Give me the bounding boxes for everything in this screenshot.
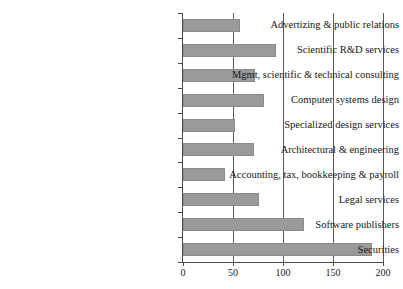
category-label: Securities xyxy=(225,244,403,256)
y-tick-7 xyxy=(178,187,182,188)
bar-chart: 050100150200 Advertizing & public relati… xyxy=(0,0,403,289)
bar xyxy=(183,168,225,181)
category-label: Advertizing & public relations xyxy=(225,19,403,31)
y-tick-3 xyxy=(178,88,182,89)
x-tick-label-0: 0 xyxy=(163,267,203,279)
y-tick-0 xyxy=(178,13,182,14)
y-tick-1 xyxy=(178,38,182,39)
category-label: Mgmt, scientific & technical consulting xyxy=(225,69,403,81)
y-tick-6 xyxy=(178,162,182,163)
x-tick-100 xyxy=(283,262,284,266)
y-tick-5 xyxy=(178,138,182,139)
category-label: Computer systems design xyxy=(225,94,403,106)
category-label: Architectural & engineering xyxy=(225,144,403,156)
y-tick-10 xyxy=(178,262,182,263)
x-tick-200 xyxy=(383,262,384,266)
x-tick-label-150: 150 xyxy=(313,267,353,279)
category-label: Legal services xyxy=(225,194,403,206)
category-label: Software publishers xyxy=(225,219,403,231)
y-tick-4 xyxy=(178,113,182,114)
y-tick-9 xyxy=(178,237,182,238)
category-label: Accounting, tax, bookkeeping & payroll xyxy=(225,169,403,181)
x-tick-150 xyxy=(333,262,334,266)
x-tick-label-100: 100 xyxy=(263,267,303,279)
x-tick-label-200: 200 xyxy=(363,267,403,279)
category-label: Scientific R&D services xyxy=(225,44,403,56)
x-tick-label-50: 50 xyxy=(213,267,253,279)
category-label: Specialized design services xyxy=(225,119,403,131)
y-tick-8 xyxy=(178,212,182,213)
x-tick-0 xyxy=(183,262,184,266)
x-tick-50 xyxy=(233,262,234,266)
y-tick-2 xyxy=(178,63,182,64)
